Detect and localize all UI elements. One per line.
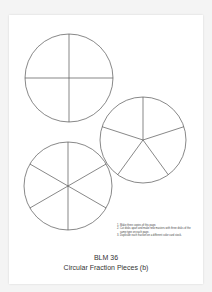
disk-divider xyxy=(68,186,106,208)
disk-sixths xyxy=(24,142,112,230)
disk-fourths xyxy=(25,34,113,122)
page-subtitle: Circular Fraction Pieces (b) xyxy=(9,264,203,271)
instructions: Make three copies of this page. Cut disk… xyxy=(115,224,195,237)
instruction-item: Cut disks apart and make new masters wit… xyxy=(120,227,195,234)
page-title: BLM 36 xyxy=(9,254,203,261)
disk-divider xyxy=(143,127,184,140)
disk-divider xyxy=(30,186,68,208)
instruction-item: Duplicate each fraction on a different c… xyxy=(120,234,195,237)
disk-divider xyxy=(30,164,68,186)
disk-fifths xyxy=(100,97,186,183)
disk-divider xyxy=(68,164,106,186)
disk-divider xyxy=(143,140,168,175)
disk-divider xyxy=(102,127,143,140)
disk-divider xyxy=(118,140,143,175)
fraction-disks xyxy=(0,0,212,292)
